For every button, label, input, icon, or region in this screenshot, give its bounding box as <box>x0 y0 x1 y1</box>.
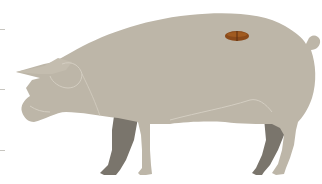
pig-cut-diagram: pig <box>0 0 322 184</box>
far-front-leg <box>100 116 138 175</box>
loin-cut-marker <box>225 31 249 41</box>
pig-silhouette <box>0 0 322 184</box>
